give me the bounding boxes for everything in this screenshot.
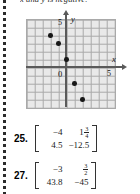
origin-label: 0: [58, 70, 62, 79]
clipped-header-text: x and y is negative.: [20, 0, 138, 4]
fraction: 34: [84, 126, 89, 139]
matrix-cell: −12.5: [68, 140, 89, 151]
margin-dotted-rule: [3, 0, 6, 194]
fraction: 32: [83, 163, 88, 176]
y-tick-label-5: 5: [58, 19, 62, 27]
coordinate-plane-graph: y x 5 5 0: [18, 11, 122, 115]
bracket-right-icon: [91, 162, 96, 189]
y-axis-label: y: [71, 15, 75, 24]
matrix-cell: −45: [68, 177, 88, 188]
matrix-cell: −4: [42, 126, 62, 139]
matrix-cell: 43.8: [42, 177, 62, 188]
matrix-cells: −41344.5−12.5: [39, 125, 92, 152]
data-point: [56, 41, 61, 46]
matrix-27: −33243.8−45: [31, 161, 100, 190]
bracket-right-icon: [92, 125, 97, 152]
matrix-25: −41344.5−12.5: [31, 124, 101, 153]
exercise-number: 27.: [14, 170, 28, 181]
matrix-cell: 32: [68, 163, 88, 176]
matrix-cell: −3: [42, 163, 62, 176]
graph-grid: [26, 19, 116, 109]
data-point: [72, 81, 77, 86]
matrix-cell: 4.5: [42, 140, 62, 151]
exercise-25: 25. −41344.5−12.5: [14, 124, 101, 153]
data-point: [48, 33, 53, 38]
x-axis: [26, 66, 122, 68]
exercise-27: 27. −33243.8−45: [14, 161, 100, 190]
exercise-number: 25.: [14, 133, 28, 144]
matrix-cell: 134: [68, 126, 89, 139]
data-point: [64, 57, 69, 62]
x-tick-label-5: 5: [107, 70, 111, 78]
matrix-cells: −33243.8−45: [39, 162, 91, 189]
x-axis-label: x: [112, 55, 116, 64]
data-point: [80, 97, 85, 102]
